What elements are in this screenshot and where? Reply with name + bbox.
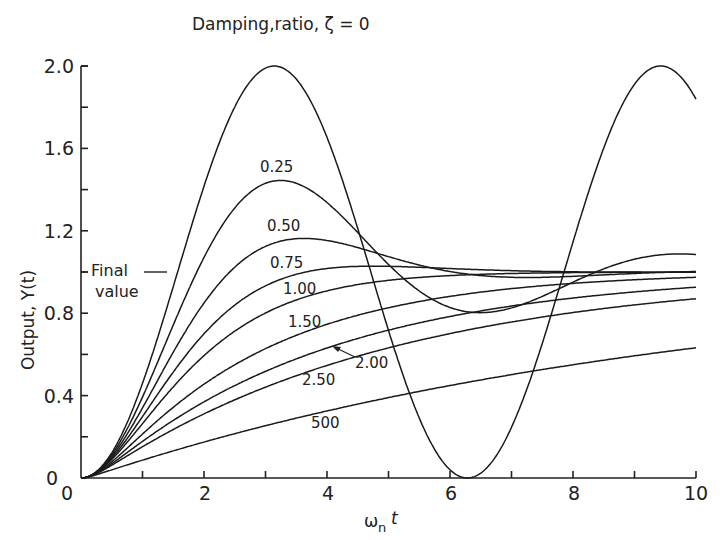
curve-label-5.00: 500 (311, 414, 340, 432)
curve-label-0.75: 0.75 (270, 254, 303, 272)
y-tick-label: 1.6 (44, 137, 74, 159)
x-ticks (143, 471, 697, 478)
x-tick-label: 2 (199, 482, 211, 504)
x-axis-title-sub: n (378, 520, 386, 535)
curve-zeta-0.75 (81, 266, 696, 478)
x-axis-title: ω n t (364, 508, 399, 535)
chart-title: Damping,ratio, ζ = 0 (192, 14, 370, 34)
x-tick-labels: 0 2 4 6 8 10 (61, 482, 708, 504)
curve-zeta-1.50 (81, 277, 696, 478)
curve-label-2.00: 2.00 (355, 354, 388, 372)
y-ticks (81, 66, 88, 437)
x-tick-label: 8 (568, 482, 580, 504)
curve-label-2.50: 2.50 (302, 371, 335, 389)
x-axis-title-t: t (391, 508, 399, 528)
curve-zeta-1.00 (81, 272, 696, 478)
curve-zeta-5.00 (81, 348, 696, 478)
final-value-label-line2: value (95, 282, 139, 301)
final-value-label-line1: Final (91, 261, 128, 280)
x-tick-label: 6 (445, 482, 457, 504)
x-tick-label: 10 (684, 482, 708, 504)
y-tick-labels: 0 0.4 0.8 1.2 1.6 2.0 (44, 55, 74, 489)
curve-zeta-2.00 (81, 287, 696, 478)
x-tick-label: 0 (61, 482, 73, 504)
curve-label-0.50: 0.50 (267, 217, 300, 235)
final-value-annotation: Final value (81, 261, 167, 301)
curve-label-0.25: 0.25 (260, 158, 293, 176)
y-tick-label: 0.8 (44, 302, 74, 324)
curve-zeta-0.50 (81, 238, 696, 478)
y-tick-label: 0 (46, 467, 58, 489)
y-tick-label: 2.0 (44, 55, 74, 77)
x-tick-label: 4 (322, 482, 334, 504)
step-response-chart: Damping,ratio, ζ = 0 0 0.4 0.8 1.2 1.6 2… (0, 0, 722, 540)
arrow-2.00 (332, 346, 355, 357)
curve-labels: 0.25 0.50 0.75 1.00 1.50 2.00 2.50 500 (260, 158, 388, 432)
curve-label-1.00: 1.00 (283, 280, 316, 298)
y-axis-title: Output, Y(t) (18, 270, 38, 370)
curve-label-1.50: 1.50 (288, 313, 321, 331)
y-tick-label: 1.2 (44, 220, 74, 242)
x-axis-title-omega: ω (364, 511, 378, 531)
response-curves (81, 66, 696, 478)
y-tick-label: 0.4 (44, 385, 74, 407)
